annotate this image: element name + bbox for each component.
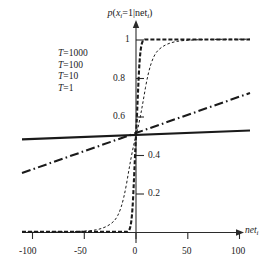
x-tick-label-50: 50 [182,247,192,257]
y-tick-label-1: 1 [125,35,130,45]
legend-label-T1-value: =1 [63,83,73,93]
chart-legend: T=1000 T=100 T=10 T=1 [12,48,104,94]
x-tick-label--50: -50 [74,247,87,257]
legend-label-T1000: T=1000 [58,48,88,58]
x-tick-label-100: 100 [231,247,245,257]
legend-item-T10: T=10 [12,71,104,83]
x-axis-label-subscript: i [257,229,259,237]
legend-item-T1: T=1 [12,83,104,95]
legend-label-T10: T=10 [58,71,78,81]
x-tick-label--100: -100 [19,247,36,257]
chart-figure: p(xi=1|neti) [0,0,260,271]
y-tick-label-0.6: 0.6 [113,112,125,122]
y-tick-label-0.2: 0.2 [148,189,160,199]
legend-label-T1: T=1 [58,83,73,93]
legend-label-T100-value: =100 [63,60,83,70]
y-tick-label-0.4: 0.4 [148,151,160,161]
legend-item-T1000: T=1000 [12,48,104,60]
x-axis-label-text: net [245,225,257,235]
legend-label-T100: T=100 [58,60,83,70]
legend-label-T10-value: =10 [63,71,78,81]
legend-item-T100: T=100 [12,60,104,72]
plot-area [0,0,260,271]
x-axis-label: neti [245,226,259,237]
y-tick-label-0.8: 0.8 [113,74,125,84]
legend-label-T1000-value: =1000 [63,48,87,58]
x-tick-label-0: 0 [133,247,138,257]
